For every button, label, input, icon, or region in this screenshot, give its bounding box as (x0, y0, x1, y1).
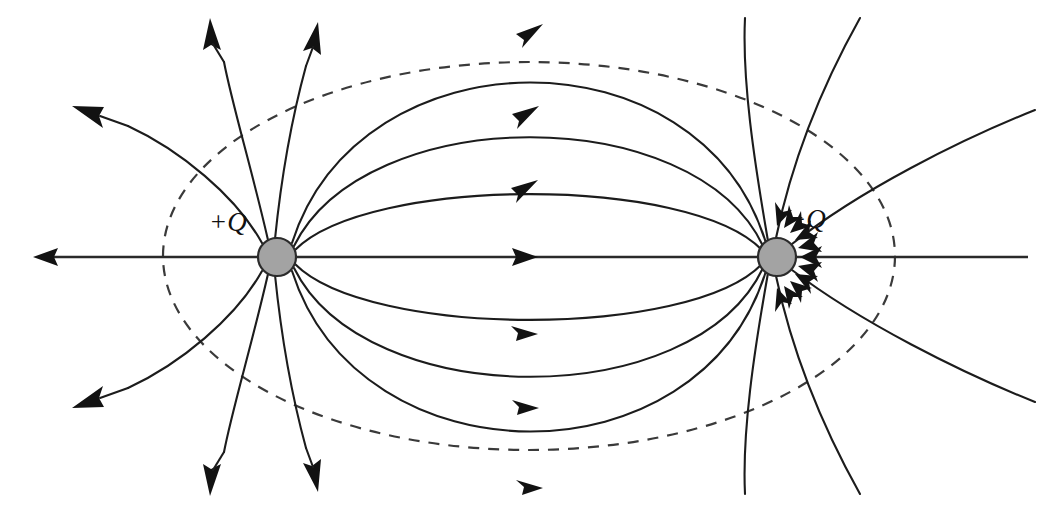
field-line-arc (295, 194, 762, 250)
field-diagram-canvas: -Q (upper family) ===== --> -Q (lower fa… (0, 0, 1050, 512)
arrow-up-icon (203, 18, 221, 50)
field-lines-outer-positive-upper (72, 18, 321, 243)
arrow-right-icon (516, 480, 543, 495)
field-line-outgoing (100, 388, 128, 398)
arrow-upleft-icon (72, 106, 104, 128)
field-line-outgoing (306, 47, 313, 66)
field-line-outgoing (128, 271, 262, 388)
field-line-outgoing (224, 274, 268, 452)
positive-charge-label: +Q (209, 207, 247, 237)
dipole-field-diagram: -Q (upper family) ===== --> -Q (lower fa… (0, 0, 1050, 512)
negative-charge-circle[interactable] (758, 238, 796, 276)
field-lines-outer-positive-lower (72, 271, 321, 496)
field-line-arc (295, 264, 762, 320)
field-line-arc (294, 137, 763, 246)
arrow-right-icon (511, 180, 538, 203)
field-lines-inner-lower (292, 264, 766, 495)
field-line-outgoing (275, 66, 306, 239)
arrow-right-icon (516, 24, 543, 48)
field-lines-inner-upper (292, 24, 766, 250)
negative-charge-label: −Q (788, 204, 826, 234)
field-line-arc (294, 268, 763, 377)
arrow-downleft-icon (72, 386, 104, 408)
field-line-outgoing (306, 448, 313, 467)
dipole-axis (33, 248, 1028, 266)
field-line-outgoing (100, 116, 128, 126)
positive-charge-circle[interactable] (258, 238, 296, 276)
arrow-right-icon (512, 400, 539, 415)
arrow-right-icon (512, 106, 539, 129)
field-line-incoming (792, 110, 1035, 244)
field-line-incoming (745, 273, 768, 494)
arrow-down-icon (203, 464, 221, 496)
field-line-incoming (792, 270, 1035, 402)
field-line-outgoing (275, 275, 306, 448)
field-line-arc (292, 82, 766, 243)
arrow-right-icon (511, 326, 538, 341)
field-line-incoming (745, 18, 768, 241)
